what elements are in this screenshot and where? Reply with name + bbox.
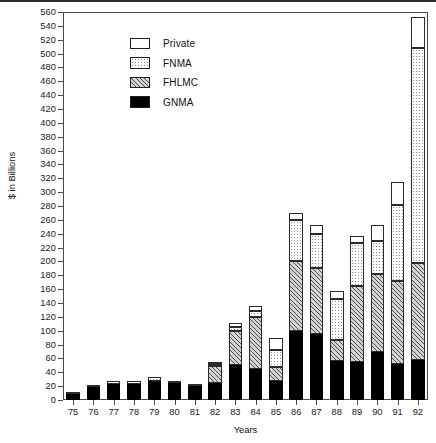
legend-swatch-fnma (130, 57, 150, 69)
bar-85[interactable] (269, 338, 283, 400)
y-axis-tick-label: 380 (40, 132, 56, 143)
y-axis-tick-label: 160 (40, 284, 56, 295)
bar-80[interactable] (168, 381, 182, 400)
bar-segment-fnma (391, 205, 405, 281)
x-axis-tick-mark (296, 400, 297, 405)
x-axis-tick-mark (256, 400, 257, 405)
bar-segment-gnma (127, 384, 141, 400)
x-axis-tick-mark (337, 400, 338, 405)
bar-segment-fhlmc (310, 268, 324, 334)
y-axis-tick-label: 200 (40, 256, 56, 267)
x-axis-tick-mark (134, 400, 135, 405)
legend-item-private[interactable]: Private (130, 36, 198, 51)
y-axis-tick-label: 260 (40, 215, 56, 226)
y-axis-tick-label: 560 (40, 7, 56, 18)
bar-segment-fhlmc (411, 263, 425, 360)
y-axis-tick-label: 340 (40, 159, 56, 170)
bar-segment-gnma (350, 362, 364, 400)
bar-segment-fhlmc (350, 286, 364, 362)
bar-segment-fhlmc (330, 340, 344, 361)
bar-91[interactable] (391, 182, 405, 400)
bar-segment-fhlmc (371, 274, 385, 352)
x-axis-tick-mark (114, 400, 115, 405)
y-axis-tick-label: 460 (40, 76, 56, 87)
bar-89[interactable] (350, 236, 364, 400)
x-axis-tick-mark (316, 400, 317, 405)
bar-segment-gnma (269, 381, 283, 400)
bar-78[interactable] (127, 381, 141, 400)
bar-segment-fnma (411, 48, 425, 263)
legend-item-fhlmc[interactable]: FHLMC (130, 75, 198, 90)
bar-81[interactable] (188, 384, 202, 400)
bar-77[interactable] (107, 381, 121, 400)
y-axis-tick-label: 300 (40, 187, 56, 198)
legend-swatch-fhlmc (130, 77, 150, 89)
x-axis-tick-mark (215, 400, 216, 405)
y-axis-tick-label: 80 (45, 340, 56, 351)
bar-82[interactable] (208, 363, 222, 400)
y-axis-tick-label: 40 (45, 367, 56, 378)
bar-segment-fnma (269, 350, 283, 367)
bar-segment-fnma (371, 241, 385, 274)
bar-segment-private (249, 306, 263, 312)
bar-segment-gnma (107, 384, 121, 400)
bar-segment-gnma (371, 352, 385, 401)
x-axis-tick-mark (276, 400, 277, 405)
legend-swatch-private (130, 38, 150, 50)
y-axis-tick-label: 180 (40, 270, 56, 281)
x-axis-tick-mark (418, 400, 419, 405)
bar-segment-fhlmc (229, 331, 243, 366)
bar-86[interactable] (289, 213, 303, 400)
bar-90[interactable] (371, 225, 385, 400)
x-axis-tick-mark (175, 400, 176, 405)
y-axis-tick-label: 20 (45, 381, 56, 392)
y-axis-tick-label: 400 (40, 118, 56, 129)
legend-swatch-gnma (130, 96, 150, 108)
y-axis-tick-label: 440 (40, 90, 56, 101)
bar-segment-fnma (229, 327, 243, 330)
bar-segment-private (411, 17, 425, 48)
x-axis-tick-mark (398, 400, 399, 405)
legend-item-fnma[interactable]: FNMA (130, 56, 198, 71)
bar-segment-fnma (127, 381, 141, 384)
top-rule (0, 0, 436, 2)
bar-segment-fnma (107, 381, 121, 384)
bar-75[interactable] (66, 392, 80, 400)
y-axis-tick-label: 540 (40, 21, 56, 32)
bar-segment-gnma (148, 381, 162, 400)
bar-segment-private (289, 213, 303, 220)
chart-legend: PrivateFNMAFHLMCGNMA (130, 36, 198, 114)
x-axis-tick-mark (93, 400, 94, 405)
bar-76[interactable] (87, 385, 101, 400)
bar-segment-private (229, 323, 243, 327)
bar-79[interactable] (148, 377, 162, 400)
bar-segment-gnma (208, 383, 222, 400)
bar-88[interactable] (330, 291, 344, 400)
bar-series-group (63, 12, 428, 400)
bar-segment-fnma (148, 377, 162, 380)
bar-segment-private (310, 225, 324, 233)
x-axis-tick-label: 92 (405, 407, 431, 417)
x-axis-tick-mark (195, 400, 196, 405)
bar-84[interactable] (249, 306, 263, 400)
bar-segment-gnma (310, 334, 324, 400)
legend-item-gnma[interactable]: GNMA (130, 95, 198, 110)
bar-segment-fnma (208, 364, 222, 366)
y-axis-tick-label: 0 (51, 395, 56, 406)
x-axis-tick-mark (235, 400, 236, 405)
bar-92[interactable] (411, 17, 425, 400)
y-axis-tick-label: 500 (40, 49, 56, 60)
bar-segment-fnma (350, 243, 364, 286)
bar-87[interactable] (310, 225, 324, 400)
bar-83[interactable] (229, 323, 243, 400)
bar-segment-gnma (289, 331, 303, 400)
y-axis-tick-label: 320 (40, 173, 56, 184)
y-axis-tick-label: 420 (40, 104, 56, 115)
y-axis-title: $ in Billions (6, 116, 17, 236)
bar-segment-private (330, 291, 344, 299)
bar-segment-fhlmc (208, 366, 222, 383)
legend-label: Private (163, 38, 195, 49)
y-axis-tick-label: 120 (40, 312, 56, 323)
bar-segment-fnma (87, 385, 101, 387)
y-axis-tick-label: 240 (40, 229, 56, 240)
